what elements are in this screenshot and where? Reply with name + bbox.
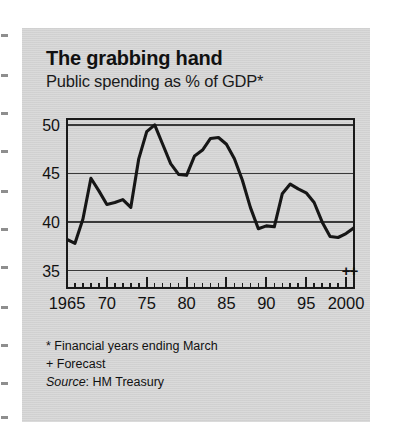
data-line-0: [67, 125, 354, 243]
x-tick-label-1970: 70: [98, 294, 116, 310]
x-tick-label-1995: 95: [297, 294, 315, 310]
y-tick-label-50: 50: [42, 117, 60, 134]
forecast-marker-2001: +: [350, 262, 359, 279]
x-tick-label-1985: 85: [217, 294, 235, 310]
chart-page: The grabbing hand Public spending as % o…: [0, 0, 402, 441]
y-tick-label-35: 35: [42, 263, 60, 280]
source-label: Source: [46, 375, 86, 389]
y-tick-label-45: 45: [42, 165, 60, 182]
line-chart-svg: 35404550++19657075808590952000: [27, 110, 367, 310]
x-tick-label-1990: 90: [257, 294, 275, 310]
page-bleed-column: [0, 0, 9, 441]
footnote-plus: + Forecast: [46, 356, 218, 374]
source-separator: :: [86, 375, 93, 389]
chart-subtitle: Public spending as % of GDP*: [46, 72, 263, 91]
x-tick-label-1975: 75: [138, 294, 156, 310]
y-tick-label-40: 40: [42, 214, 60, 231]
chart-footnotes: * Financial years ending March + Forecas…: [46, 338, 218, 391]
source-value: HM Treasury: [93, 375, 165, 389]
footnote-asterisk: * Financial years ending March: [46, 338, 218, 356]
chart-title: The grabbing hand: [46, 47, 223, 70]
chart-plot-area: 35404550++19657075808590952000: [27, 110, 367, 310]
x-tick-label-1965: 1965: [49, 294, 86, 310]
x-tick-label-2000: 2000: [328, 294, 365, 310]
x-tick-label-1980: 80: [177, 294, 195, 310]
footnote-source: Source: HM Treasury: [46, 374, 218, 392]
